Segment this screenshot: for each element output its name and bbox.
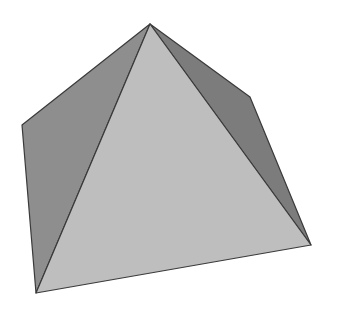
- pyramid-diagram: [0, 0, 341, 319]
- pyramid-svg: [0, 0, 341, 319]
